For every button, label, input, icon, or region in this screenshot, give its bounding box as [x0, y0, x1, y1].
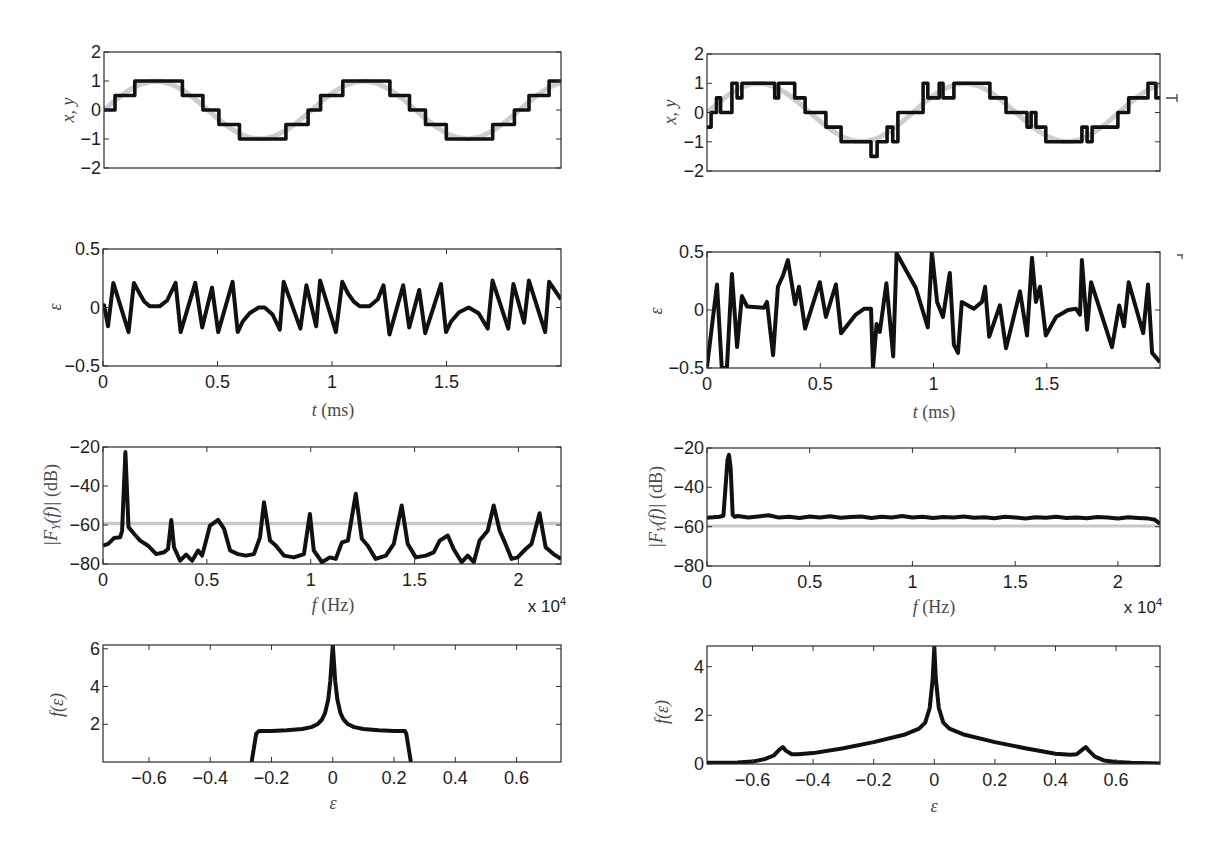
x-tick-label: 0	[98, 372, 108, 392]
plot-spectrum-with-dither: −80−60−40−2000.511.52	[707, 448, 1160, 566]
x-tick-label: 0.4	[443, 768, 468, 788]
plot-signal-no-dither: −2−1012	[104, 52, 561, 168]
plot-area	[707, 252, 1160, 368]
series-line	[252, 645, 411, 762]
x-tick-label: 0.2	[382, 768, 407, 788]
y-axis-label: x, y	[58, 98, 78, 123]
series-line	[103, 281, 561, 335]
x-tick-label: 0.5	[205, 372, 230, 392]
y-tick-label: 2	[91, 42, 101, 62]
series-line	[707, 647, 1162, 763]
y-tick-label: 1	[694, 73, 704, 93]
series-line	[707, 455, 1160, 524]
x-axis-label: t (ms)	[913, 402, 956, 422]
y-tick-label: −1	[683, 132, 704, 152]
y-tick-label: 4	[694, 657, 704, 677]
plot-area	[707, 54, 1160, 171]
x-axis-label: ε	[930, 796, 937, 816]
y-tick-label: −2	[683, 161, 704, 181]
axes-frame	[707, 448, 1160, 566]
x-axis-label: f (Hz)	[312, 595, 355, 615]
x-tick-label: −0.2	[254, 768, 290, 788]
axes-frame	[707, 54, 1160, 171]
plot-area	[103, 645, 561, 762]
y-axis-label: x, y	[660, 100, 680, 125]
x-tick-label: 1.5	[434, 372, 459, 392]
x-tick-label: 0.2	[982, 770, 1007, 790]
series-line	[103, 452, 561, 562]
x-tick-label: 0.6	[504, 768, 529, 788]
y-tick-label: −40	[69, 476, 100, 496]
y-tick-label: 0.5	[75, 239, 100, 259]
x-axis-multiplier: x 104	[528, 595, 566, 617]
y-tick-label: 0	[90, 298, 100, 318]
plot-error-no-dither: −0.500.500.511.5	[103, 249, 561, 366]
y-tick-label: 0	[694, 754, 704, 774]
stray-tick-mark	[1164, 92, 1180, 104]
x-tick-label: −0.4	[795, 770, 831, 790]
series-line	[104, 81, 561, 139]
y-tick-label: 2	[694, 44, 704, 64]
x-tick-label: 1	[306, 570, 316, 590]
y-axis-label: |FY(f)| (dB)	[646, 466, 671, 548]
y-tick-label: 0	[694, 103, 704, 123]
y-axis-label: f(ε)	[47, 693, 67, 717]
x-tick-label: 1.5	[1034, 374, 1059, 394]
plot-error-pdf-with-dither: 024−0.6−0.4−0.200.20.40.6	[707, 646, 1160, 764]
y-tick-label: −0.5	[668, 358, 704, 378]
x-tick-label: −0.4	[192, 768, 228, 788]
y-tick-label: −80	[673, 556, 704, 576]
plot-area	[707, 448, 1160, 566]
y-tick-label: 0.5	[679, 242, 704, 262]
y-tick-label: 2	[694, 705, 704, 725]
x-tick-label: 0.5	[194, 570, 219, 590]
y-tick-label: 0	[91, 100, 101, 120]
y-tick-label: 1	[91, 71, 101, 91]
x-tick-label: 2	[513, 570, 523, 590]
x-axis-label: ε	[329, 793, 336, 813]
x-tick-label: 2	[1113, 572, 1123, 592]
x-tick-label: −0.6	[131, 768, 167, 788]
y-tick-label: −0.5	[64, 356, 100, 376]
plot-spectrum-no-dither: −80−60−40−2000.511.52	[103, 447, 561, 564]
x-tick-label: 0	[98, 570, 108, 590]
x-tick-label: 0	[702, 374, 712, 394]
x-axis-label: t (ms)	[312, 400, 355, 420]
plot-area	[104, 52, 561, 168]
y-axis-label: ε	[45, 303, 65, 310]
plot-error-with-dither: −0.500.500.511.5	[707, 252, 1160, 368]
x-axis-label: f (Hz)	[913, 597, 956, 617]
plot-area	[707, 646, 1160, 764]
x-tick-label: 0	[702, 572, 712, 592]
y-tick-label: −40	[673, 477, 704, 497]
x-tick-label: 1	[907, 572, 917, 592]
y-tick-label: −2	[80, 158, 101, 178]
axes-frame	[103, 249, 561, 366]
x-tick-label: 1.5	[402, 570, 427, 590]
x-tick-label: 0	[328, 768, 338, 788]
x-tick-label: 1.5	[1003, 572, 1028, 592]
y-tick-label: 6	[90, 639, 100, 659]
plot-error-pdf-no-dither: 246−0.6−0.4−0.200.20.40.6	[103, 645, 561, 762]
plot-signal-with-dither: −2−1012	[707, 54, 1160, 171]
x-tick-label: 0.5	[797, 572, 822, 592]
x-tick-label: −0.6	[735, 770, 771, 790]
y-axis-label: ε	[646, 307, 666, 314]
x-tick-label: 0.6	[1104, 770, 1129, 790]
y-tick-label: −1	[80, 129, 101, 149]
x-tick-label: 0.5	[808, 374, 833, 394]
y-tick-label: −20	[69, 437, 100, 457]
y-tick-label: −20	[673, 438, 704, 458]
stray-tick-mark	[1176, 252, 1186, 262]
y-axis-label: |FY(f)| (dB)	[41, 464, 66, 546]
axes-frame	[104, 52, 561, 168]
x-tick-label: 0	[929, 770, 939, 790]
y-tick-label: −60	[69, 515, 100, 535]
x-axis-multiplier: x 104	[1124, 596, 1162, 618]
y-tick-label: 4	[90, 677, 100, 697]
plot-area	[103, 249, 561, 366]
x-tick-label: 1	[327, 372, 337, 392]
y-axis-label: f(ε)	[652, 700, 672, 724]
y-tick-label: −60	[673, 517, 704, 537]
x-tick-label: −0.2	[856, 770, 892, 790]
